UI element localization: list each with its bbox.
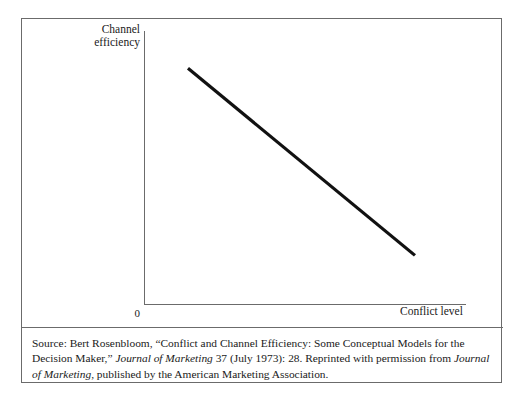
trend-line-channel-efficiency [188, 68, 415, 255]
y-axis-label-line-2: efficiency [70, 36, 140, 49]
origin-tick-label: 0 [122, 307, 140, 320]
source-caption: Source: Bert Rosenbloom, “Conflict and C… [22, 328, 503, 383]
x-axis-label: Conflict level [400, 305, 463, 318]
caption-middle: 37 (July 1973): 28. Reprinted with permi… [213, 352, 454, 364]
caption-suffix: , published by the American Marketing As… [91, 368, 328, 380]
y-axis-label-line-1: Channel [70, 23, 140, 36]
figure-frame: Channel efficiency Conflict level 0 Sour… [21, 18, 502, 383]
chart-canvas [22, 19, 503, 327]
y-axis-label: Channel efficiency [70, 23, 140, 48]
figure-page: Channel efficiency Conflict level 0 Sour… [0, 0, 524, 400]
plot-area: Channel efficiency Conflict level 0 [22, 19, 503, 327]
caption-journal-title-1: Journal of Marketing [115, 352, 212, 364]
